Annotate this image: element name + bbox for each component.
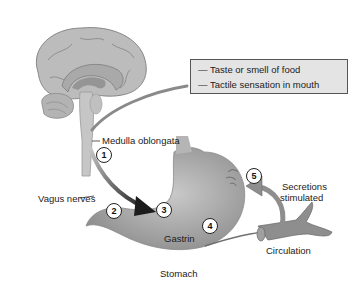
stimulus-tactile: — Tactile sensation in mouth: [198, 79, 319, 90]
stomach-label: Stomach: [160, 268, 198, 279]
gastrin-label: Gastrin: [164, 233, 195, 244]
secretions-label-line2: stimulated: [280, 192, 323, 203]
diagram-canvas: — Taste or smell of food — Tactile sensa…: [0, 0, 352, 286]
vagus-label: Vagus nerves: [38, 193, 95, 204]
circulation-label: Circulation: [266, 245, 311, 256]
stimulus-taste-smell: — Taste or smell of food: [198, 64, 300, 75]
step-1-badge: 1: [96, 147, 112, 163]
step-4-badge: 4: [202, 218, 218, 234]
step-3-badge: 3: [156, 202, 172, 218]
medulla-label: Medulla oblongata: [102, 135, 180, 146]
step-2-badge: 2: [106, 203, 122, 219]
step-5-badge: 5: [246, 168, 262, 184]
secretions-label-line1: Secretions: [282, 181, 327, 192]
stimuli-box: — Taste or smell of food — Tactile sensa…: [190, 59, 348, 94]
